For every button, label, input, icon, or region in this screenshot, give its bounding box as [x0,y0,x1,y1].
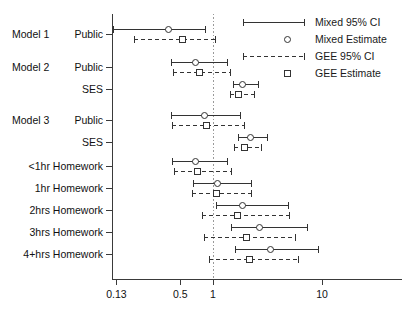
ci-cap-lower [234,144,235,151]
ci-cap-lower [171,59,172,66]
ci-cap-lower [216,202,217,209]
ci-cap-upper [231,168,232,175]
ci-cap-lower [193,180,194,187]
ci-cap-upper [251,190,252,197]
row-label-3hrs-homework: 3hrs Homework [29,226,103,238]
x-tick [116,279,117,285]
ci-cap-upper [227,158,228,165]
group-label-model-1: Model 1 [12,28,49,40]
x-tick [180,279,181,285]
x-tick-label: 10 [316,288,328,300]
ci-cap-upper [307,224,308,231]
estimate-marker-mixed [201,112,208,119]
x-tick [322,279,323,285]
legend: Mixed 95% CIMixed EstimateGEE 95% CIGEE … [243,14,411,82]
group-label-model-3: Model 3 [12,114,49,126]
y-tick [106,142,112,143]
ci-cap-upper [295,234,296,241]
ci-cap-lower [209,256,210,263]
ci-cap-upper [298,256,299,263]
legend-label: GEE 95% CI [315,48,375,65]
estimate-marker-gee [246,256,253,263]
group-label-model-2: Model 2 [12,61,49,73]
ci-bar [243,56,305,57]
ci-cap-lower [113,26,114,33]
estimate-marker-gee [234,212,241,219]
ci-cap [243,53,244,60]
y-tick [106,232,112,233]
x-tick-label: 0.13 [106,288,126,300]
ci-cap-upper [288,202,289,209]
legend-item: Mixed Estimate [243,31,411,48]
y-tick [106,254,112,255]
ci-cap-lower [233,81,234,88]
estimate-marker-mixed [192,59,199,66]
estimate-marker-gee [213,190,220,197]
estimate-marker-mixed [239,202,246,209]
ci-cap-lower [204,234,205,241]
ci-bar [243,22,305,23]
legend-label: Mixed 95% CI [315,14,380,31]
ci-cap [304,53,305,60]
estimate-marker-mixed [256,224,263,231]
ci-cap-upper [227,59,228,66]
square-marker-icon [284,70,291,77]
ci-bar [113,29,205,30]
circle-marker-icon [284,36,291,43]
estimate-marker-mixed [192,158,199,165]
ci-cap-lower [202,212,203,219]
ci-cap-lower [172,122,173,129]
ci-cap-upper [230,69,231,76]
estimate-marker-gee [235,91,242,98]
ci-cap-upper [318,246,319,253]
ci-bar [202,215,289,216]
ci-cap-lower [231,224,232,231]
ci-cap-lower [235,246,236,253]
estimate-marker-gee [241,144,248,151]
ci-cap-lower [171,112,172,119]
ci-cap-upper [254,91,255,98]
ci-cap-upper [289,212,290,219]
y-tick [106,67,112,68]
y-tick [106,188,112,189]
y-axis-line [112,14,113,279]
ci-cap-upper [244,122,245,129]
row-label-ses: SES [82,136,103,148]
ci-cap-lower [230,91,231,98]
ci-cap-upper [251,180,252,187]
ci-bar [134,39,215,40]
ci-cap-lower [134,36,135,43]
ci-cap-lower [172,158,173,165]
ci-cap-upper [267,134,268,141]
x-axis-line [112,279,402,280]
estimate-marker-mixed [214,180,221,187]
ci-bar [235,249,318,250]
legend-label: Mixed Estimate [315,31,387,48]
y-tick [106,166,112,167]
ci-cap-upper [215,36,216,43]
estimate-marker-gee [243,234,250,241]
legend-item: Mixed 95% CI [243,14,411,31]
estimate-marker-mixed [165,26,172,33]
legend-label: GEE Estimate [315,65,381,82]
estimate-marker-gee [196,69,203,76]
forest-plot: PublicModel 1PublicModel 2SESPublicModel… [0,0,415,314]
x-tick-label: 0.5 [173,288,188,300]
ci-cap-lower [238,134,239,141]
ci-cap-lower [192,190,193,197]
ci-cap-upper [240,112,241,119]
row-label-public: Public [74,114,103,126]
ci-cap [243,19,244,26]
legend-item: GEE Estimate [243,65,411,82]
y-tick [106,34,112,35]
ci-bar [193,183,252,184]
row-label-ses: SES [82,83,103,95]
row-label-1hr-homework: 1hr Homework [35,182,103,194]
y-tick [106,120,112,121]
ci-bar [231,227,307,228]
row-label-2hrs-homework: 2hrs Homework [29,204,103,216]
estimate-marker-gee [203,122,210,129]
ci-bar [209,259,298,260]
row-label-4-hrs-homework: 4+hrs Homework [23,248,103,260]
reference-line-at-1 [213,14,214,279]
